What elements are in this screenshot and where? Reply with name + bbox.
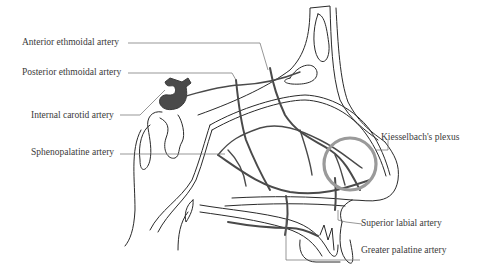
internal-carotid-artery bbox=[160, 78, 191, 110]
arteries bbox=[186, 68, 370, 236]
label-greater-palatine-artery: Greater palatine artery bbox=[361, 246, 446, 256]
label-kiesselbachs-plexus: Kiesselbach's plexus bbox=[381, 133, 460, 143]
label-superior-labial-artery: Superior labial artery bbox=[361, 219, 442, 229]
label-sphenopalatine-artery: Sphenopalatine artery bbox=[31, 148, 114, 158]
sphenoid-outline bbox=[125, 112, 184, 246]
nasal-artery-diagram: Anterior ethmoidal artery Posterior ethm… bbox=[0, 0, 479, 276]
label-anterior-ethmoidal-artery: Anterior ethmoidal artery bbox=[22, 38, 119, 48]
palate-outline bbox=[178, 200, 340, 262]
kiesselbach-plexus-ring bbox=[324, 138, 376, 190]
label-posterior-ethmoidal-artery: Posterior ethmoidal artery bbox=[22, 68, 121, 78]
nasal-bone-outline bbox=[198, 6, 385, 142]
label-internal-carotid-artery: Internal carotid artery bbox=[31, 111, 114, 121]
